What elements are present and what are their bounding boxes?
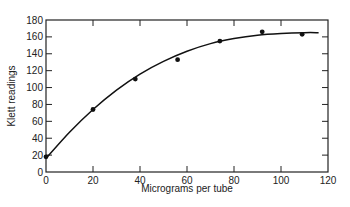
chart: 020406080100120140160180 020406080100120…: [0, 0, 350, 207]
y-axis-label: Klett readings: [6, 65, 17, 126]
y-tick-label: 40: [32, 133, 44, 144]
data-point: [260, 29, 265, 34]
data-points: [44, 29, 305, 159]
x-axis-label: Micrograms per tube: [141, 183, 233, 194]
x-tick-label: 20: [87, 175, 99, 186]
y-tick-label: 100: [26, 82, 43, 93]
data-point: [44, 154, 49, 159]
fitted-curve: [46, 33, 319, 159]
plot-frame: [46, 20, 328, 172]
y-axis-ticks: 020406080100120140160180: [26, 15, 328, 178]
y-tick-label: 80: [32, 99, 44, 110]
y-tick-label: 180: [26, 15, 43, 26]
y-tick-label: 120: [26, 65, 43, 76]
data-point: [91, 107, 96, 112]
data-point: [133, 77, 138, 82]
data-point: [300, 32, 305, 37]
y-tick-label: 140: [26, 48, 43, 59]
y-tick-label: 60: [32, 116, 44, 127]
y-tick-label: 160: [26, 31, 43, 42]
x-axis-ticks: 020406080100120: [43, 20, 337, 186]
x-tick-label: 120: [320, 175, 337, 186]
data-point: [218, 39, 223, 44]
x-tick-label: 0: [43, 175, 49, 186]
x-tick-label: 100: [273, 175, 290, 186]
data-point: [175, 57, 180, 62]
y-tick-label: 20: [32, 150, 44, 161]
